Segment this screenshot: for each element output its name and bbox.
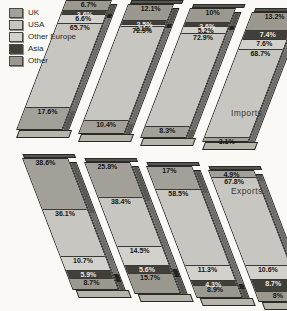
bar-bottom-face bbox=[16, 130, 72, 138]
bar-bottom-face bbox=[262, 302, 287, 310]
legend-item-usa: USA bbox=[9, 19, 76, 30]
legend-label-uk: UK bbox=[28, 8, 39, 17]
segment-uk: 17.6% bbox=[17, 107, 70, 130]
segment-value-label: 7.6% bbox=[242, 40, 286, 48]
legend-swatch-other-europe bbox=[9, 32, 23, 42]
segment-value-label: 10.7% bbox=[61, 257, 105, 265]
legend-label-other-europe: Other Europe bbox=[28, 32, 76, 41]
legend-item-other-europe: Other Europe bbox=[9, 31, 76, 42]
segment-asia: 7.4% bbox=[242, 30, 287, 39]
segment-other: 15.7% bbox=[127, 273, 179, 293]
segment-value-label: 17.6% bbox=[26, 108, 70, 116]
segment-value-label: 10.4% bbox=[84, 121, 128, 129]
legend-item-uk: UK bbox=[9, 7, 76, 18]
segment-other: 8.7% bbox=[69, 278, 117, 289]
segment-value-label: 38.4% bbox=[99, 198, 143, 206]
segment-value-label: 14.5% bbox=[118, 247, 162, 255]
segment-value-label: 11.3% bbox=[185, 266, 229, 274]
segment-asia: 8.7% bbox=[251, 279, 287, 290]
segment-value-label: 10% bbox=[191, 9, 235, 17]
bar-bottom-face bbox=[76, 290, 132, 298]
trade-shares-3d-stacked-chart: UKUSAOther EuropeAsiaOther 6.7%3.6%6.6%6… bbox=[0, 0, 287, 311]
segment-other: 12.1% bbox=[123, 5, 173, 20]
exports-row-caption: Exports bbox=[231, 186, 263, 196]
segment-uk: 3.1% bbox=[203, 137, 249, 141]
legend-swatch-asia bbox=[9, 44, 23, 54]
bar-bottom-face bbox=[140, 138, 196, 146]
segment-asia: 5.6% bbox=[125, 265, 172, 272]
segment-value-label: 13.2% bbox=[253, 13, 287, 21]
imports-row-caption: Imports bbox=[231, 108, 262, 118]
legend-swatch-other bbox=[9, 56, 23, 66]
segment-value-label: 8.7% bbox=[69, 279, 113, 287]
legend-label-usa: USA bbox=[28, 20, 44, 29]
segment-value-label: 10.6% bbox=[246, 266, 287, 274]
segment-other: 8% bbox=[255, 291, 287, 301]
segment-other: 8.9% bbox=[193, 285, 241, 297]
segment-uk: 17% bbox=[147, 167, 199, 189]
segment-value-label: 25.8% bbox=[85, 163, 129, 171]
segment-other-europe: 14.5% bbox=[117, 246, 168, 265]
segment-value-label: 8.7% bbox=[251, 280, 287, 288]
segment-value-label: 72.9% bbox=[120, 27, 164, 35]
segment-value-label: 38.6% bbox=[23, 159, 67, 167]
segment-uk: 10.4% bbox=[79, 120, 128, 133]
legend-swatch-usa bbox=[9, 20, 23, 30]
segment-value-label: 72.9% bbox=[181, 34, 225, 42]
segment-value-label: 8% bbox=[256, 292, 287, 300]
segment-other-europe: 10.6% bbox=[246, 265, 287, 279]
bar-bottom-face bbox=[202, 142, 258, 150]
segment-other: 13.2% bbox=[246, 13, 287, 30]
legend-item-other: Other bbox=[9, 55, 76, 66]
segment-value-label: 7.4% bbox=[246, 31, 287, 39]
bar-bottom-face bbox=[200, 298, 256, 306]
segment-other-europe: 11.3% bbox=[185, 265, 235, 280]
segment-other-europe: 10.7% bbox=[61, 256, 110, 270]
segment-value-label: 8.3% bbox=[145, 127, 189, 135]
legend-item-asia: Asia bbox=[9, 43, 76, 54]
segment-value-label: 15.7% bbox=[128, 274, 172, 282]
legend-label-other: Other bbox=[28, 56, 48, 65]
segment-value-label: 8.9% bbox=[193, 286, 237, 294]
segment-value-label: 58.5% bbox=[156, 190, 200, 198]
chart-legend: UKUSAOther EuropeAsiaOther bbox=[9, 7, 76, 67]
segment-asia: 5.9% bbox=[66, 270, 113, 278]
segment-other-europe: 7.6% bbox=[239, 39, 287, 49]
bar-bottom-face bbox=[138, 294, 194, 302]
legend-swatch-uk bbox=[9, 8, 23, 18]
segment-value-label: 17% bbox=[147, 167, 191, 175]
segment-other-europe: 5.2% bbox=[181, 26, 228, 33]
segment-uk: 8.3% bbox=[142, 126, 190, 137]
segment-value-label: 36.1% bbox=[43, 210, 87, 218]
legend-label-asia: Asia bbox=[28, 44, 44, 53]
segment-value-label: 12.1% bbox=[129, 5, 173, 13]
segment-value-label: 68.7% bbox=[238, 50, 282, 58]
bar-bottom-face bbox=[78, 134, 134, 142]
segment-other: 10% bbox=[186, 9, 235, 22]
